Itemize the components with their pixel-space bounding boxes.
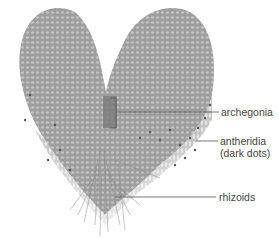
label-antheridia-line2: (dark dots): [220, 147, 270, 159]
label-antheridia: antheridia (dark dots): [220, 135, 270, 159]
label-archegonia: archegonia: [221, 106, 273, 118]
label-rhizoids: rhizoids: [219, 191, 255, 203]
label-antheridia-line1: antheridia: [220, 135, 270, 147]
